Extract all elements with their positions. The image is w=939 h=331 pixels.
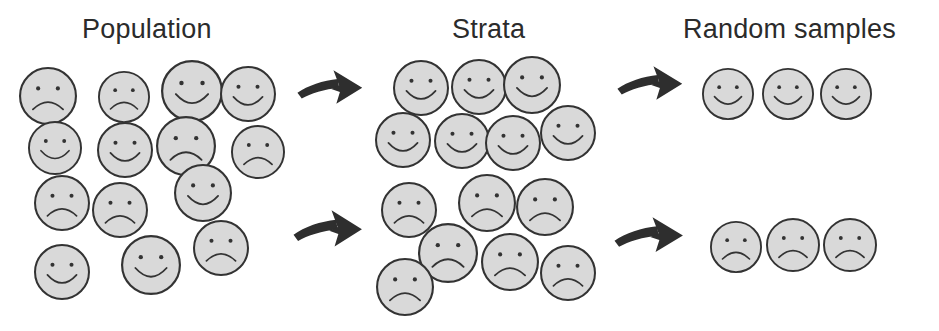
- arrow-sad-stratum-to-sample: [615, 217, 683, 252]
- arrow-population-to-sad-stratum: [294, 210, 362, 246]
- arrow-population-to-happy-stratum: [297, 70, 362, 103]
- stratified-sampling-diagram: Population Strata Random samples: [0, 0, 939, 331]
- arrow-happy-stratum-to-sample: [617, 66, 682, 99]
- arrows-layer: [0, 0, 939, 331]
